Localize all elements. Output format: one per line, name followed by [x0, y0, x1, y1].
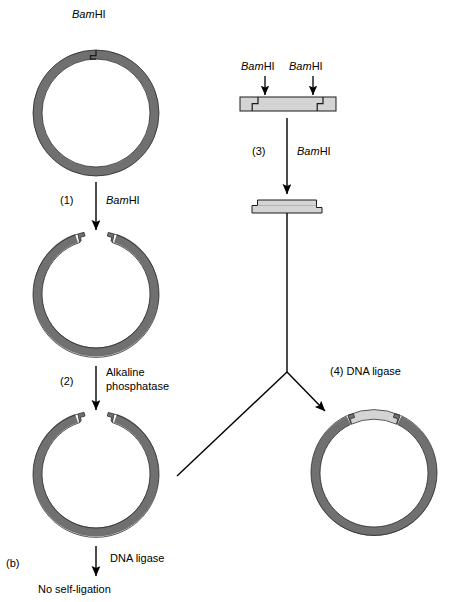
right-sticky-end — [107, 232, 114, 242]
step2-number: (2) — [60, 375, 73, 388]
bamhi-label-donor-right: BamHI — [289, 60, 323, 73]
intact-plasmid-circle — [33, 50, 159, 176]
dna-ligase-label-left: DNA ligase — [110, 552, 164, 565]
right-sticky-end-dephos — [107, 412, 114, 422]
step3-enzyme-label: BamHI — [297, 145, 331, 158]
donor-dna-fragment — [240, 97, 336, 111]
panel-label-b: (b) — [6, 557, 19, 570]
ligation-converging-lines — [177, 213, 325, 476]
step3-number: (3) — [252, 145, 265, 158]
no-self-ligation-label: No self-ligation — [38, 583, 111, 596]
dephosphorylated-plasmid-circle — [33, 412, 159, 537]
step4-dna-ligase-label: (4) DNA ligase — [330, 365, 401, 378]
step2-label: Alkaline phosphatase — [106, 366, 196, 393]
bamhi-label-donor-left: BamHI — [241, 60, 275, 73]
left-sticky-end-dephos — [78, 412, 85, 422]
step1-enzyme-label: BamHI — [106, 194, 140, 207]
diagram-graphics — [0, 0, 458, 602]
bamhi-label-top: BamHI — [72, 8, 106, 21]
left-sticky-end — [78, 232, 85, 242]
recombinant-plasmid-circle — [311, 410, 437, 536]
excised-insert-fragment — [252, 200, 322, 213]
linearized-plasmid-circle — [33, 232, 159, 357]
step1-number: (1) — [60, 194, 73, 207]
figure-canvas: BamHI (1) BamHI (2) Alkaline phosphatase… — [0, 0, 458, 602]
